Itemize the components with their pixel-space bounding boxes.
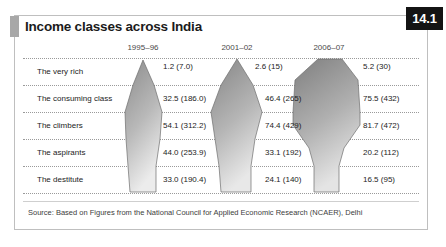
figure-number-badge: 14.1 (406, 7, 443, 30)
source-divider (23, 201, 419, 202)
row-label-consuming-class: The consuming class (37, 94, 112, 103)
value-2001-destitute: 24.1 (140) (265, 175, 301, 184)
source-note: Source: Based on Figures from the Nation… (28, 208, 362, 217)
value-2006-aspirants: 20.2 (112) (363, 148, 399, 157)
value-2001-climbers: 74.4 (429) (265, 121, 301, 130)
accent-bar (10, 16, 19, 37)
value-2001-very-rich: 2.6 (15) (255, 62, 283, 71)
row-label-very-rich: The very rich (37, 67, 83, 76)
row-label-destitute: The destitute (37, 175, 83, 184)
value-1995-consuming-class: 32.5 (186.0) (163, 94, 206, 103)
value-1995-climbers: 54.1 (312.2) (163, 121, 206, 130)
funnel-1995-96 (125, 60, 162, 192)
funnel-2001-02 (211, 59, 262, 192)
value-1995-destitute: 33.0 (190.4) (163, 175, 206, 184)
value-1995-very-rich: 1.2 (7.0) (163, 62, 193, 71)
figure-income-classes: Income classes across India 14.1 1995–96… (0, 0, 446, 247)
value-1995-aspirants: 44.0 (253.9) (163, 148, 206, 157)
value-2006-climbers: 81.7 (472) (363, 121, 399, 130)
value-2001-aspirants: 33.1 (192) (265, 148, 301, 157)
value-2001-consuming-class: 46.4 (265) (265, 94, 301, 103)
value-2006-destitute: 16.5 (95) (363, 175, 395, 184)
page-title: Income classes across India (25, 19, 202, 34)
funnel-2006-07 (293, 59, 360, 192)
row-label-climbers: The climbers (37, 121, 83, 130)
value-2006-very-rich: 5.2 (30) (363, 62, 391, 71)
chart-plot-area: 1995–96 2001–02 2006–07 (15, 40, 427, 200)
value-2006-consuming-class: 75.5 (432) (363, 94, 399, 103)
row-label-aspirants: The aspirants (37, 148, 85, 157)
